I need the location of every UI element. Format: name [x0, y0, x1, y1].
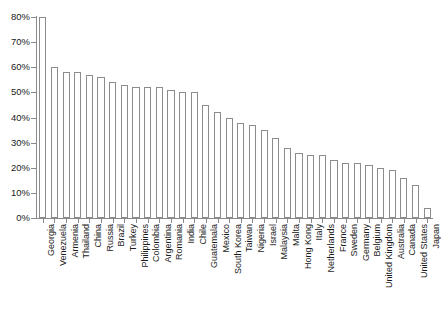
x-axis-tick-label: China	[93, 224, 103, 248]
x-axis-ticks	[37, 219, 433, 223]
x-axis-tick-label: Malta	[291, 224, 301, 246]
y-axis-tick-label: 40%	[0, 113, 30, 123]
y-axis-tick	[31, 218, 36, 219]
bar	[424, 208, 431, 218]
y-axis-tick	[31, 168, 36, 169]
x-axis-tick	[43, 219, 44, 223]
y-axis-tick	[31, 92, 36, 93]
y-axis-tick	[31, 193, 36, 194]
x-axis-tick	[346, 219, 347, 223]
y-axis-tick-label: 50%	[0, 87, 30, 97]
y-axis-tick-label: 10%	[0, 188, 30, 198]
x-axis-tick-label: Nigeria	[256, 224, 266, 253]
x-axis-tick	[136, 219, 137, 223]
bar	[249, 125, 256, 218]
x-axis-tick-label: India	[186, 224, 196, 244]
bar	[307, 155, 314, 218]
x-axis-tick-label: Romania	[174, 224, 184, 260]
x-axis-tick	[276, 219, 277, 223]
y-axis-tick-label: 20%	[0, 163, 30, 173]
bar	[400, 178, 407, 218]
x-axis-tick	[264, 219, 265, 223]
x-axis-tick-label: Malaysia	[279, 224, 289, 260]
bar	[412, 185, 419, 218]
bar	[389, 170, 396, 218]
x-axis-tick-label: South Korea	[233, 224, 243, 274]
x-axis-tick	[334, 219, 335, 223]
bar-series	[37, 17, 433, 218]
x-axis-tick-label: Guatemala	[209, 224, 219, 268]
bar	[109, 82, 116, 218]
x-axis-tick	[299, 219, 300, 223]
x-axis-tick-label: Italy	[314, 224, 324, 241]
x-axis-tick-label: Brazil	[116, 224, 126, 247]
y-axis-tick-label: 70%	[0, 37, 30, 47]
x-axis-tick	[183, 219, 184, 223]
x-axis-tick-label: Thailand	[81, 224, 91, 259]
x-axis-tick-label: France	[338, 224, 348, 252]
x-axis-tick-label: Russia	[105, 224, 115, 252]
x-axis-tick	[148, 219, 149, 223]
bar	[144, 87, 151, 218]
bar	[272, 138, 279, 218]
y-axis-tick	[31, 118, 36, 119]
y-axis-tick-label: 30%	[0, 138, 30, 148]
x-axis-tick	[381, 219, 382, 223]
bar	[342, 163, 349, 218]
x-axis-labels: GeorgiaVenezuelaArmeniaThailandChinaRuss…	[37, 224, 433, 318]
x-axis-tick-label: Belgium	[372, 224, 382, 257]
bar	[214, 112, 221, 218]
x-axis-tick-label: Georgia	[46, 224, 56, 256]
bar	[377, 168, 384, 218]
x-axis-tick	[78, 219, 79, 223]
y-axis-tick-label: 0%	[0, 213, 30, 223]
x-axis-tick-label: United Kingdom	[384, 224, 394, 288]
bar	[156, 87, 163, 218]
x-axis-tick	[54, 219, 55, 223]
x-axis-tick-label: Taiwan	[244, 224, 254, 252]
x-axis-tick	[252, 219, 253, 223]
x-axis-tick-label: Armenia	[70, 224, 80, 258]
y-axis-tick	[31, 143, 36, 144]
bar	[365, 165, 372, 218]
bar	[191, 92, 198, 218]
x-axis-tick-label: Australia	[396, 224, 406, 259]
x-axis-tick	[322, 219, 323, 223]
bar	[237, 123, 244, 218]
bar	[295, 153, 302, 218]
x-axis-tick-label: Germany	[361, 224, 371, 261]
bar	[63, 72, 70, 218]
x-axis-tick	[206, 219, 207, 223]
x-axis-tick-label: Colombia	[151, 224, 161, 262]
bar	[202, 105, 209, 218]
x-axis-tick	[357, 219, 358, 223]
bar	[132, 87, 139, 218]
x-axis-tick-label: Canada	[407, 224, 417, 256]
x-axis-tick	[89, 219, 90, 223]
bar	[261, 130, 268, 218]
bar	[319, 155, 326, 218]
x-axis-tick-label: Israel	[268, 224, 278, 246]
bar	[226, 118, 233, 219]
x-axis-tick	[241, 219, 242, 223]
x-axis-tick-label: Mexico	[221, 224, 231, 253]
bar	[86, 75, 93, 218]
y-axis-tick	[31, 67, 36, 68]
bar	[121, 85, 128, 218]
bar	[39, 17, 46, 218]
x-axis-tick	[66, 219, 67, 223]
x-axis-tick	[159, 219, 160, 223]
x-axis-tick	[229, 219, 230, 223]
x-axis-tick	[124, 219, 125, 223]
bar	[74, 72, 81, 218]
x-axis-tick	[287, 219, 288, 223]
bar	[97, 77, 104, 218]
bar	[167, 90, 174, 218]
x-axis-tick-label: Turkey	[128, 224, 138, 251]
x-axis-tick	[404, 219, 405, 223]
x-axis-tick	[113, 219, 114, 223]
bar	[284, 148, 291, 218]
y-axis-tick-label: 60%	[0, 62, 30, 72]
y-axis-tick-label: 80%	[0, 12, 30, 22]
